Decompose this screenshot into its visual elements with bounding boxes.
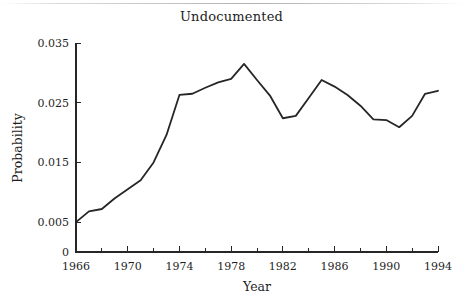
y-tick-label: 0.025: [38, 97, 70, 110]
data-series-line: [76, 64, 438, 222]
y-tick-label: 0.005: [38, 216, 70, 229]
x-tick-label: 1990: [372, 260, 400, 273]
x-axis-label: Year: [242, 279, 271, 294]
x-tick-label: 1974: [165, 260, 193, 273]
x-tick-label: 1978: [217, 260, 245, 273]
x-tick-label: 1994: [424, 260, 452, 273]
x-tick-label: 1970: [114, 260, 142, 273]
x-axis-tick-labels: 19661970197419781982198619901994: [62, 260, 452, 273]
x-tick-label: 1966: [62, 260, 90, 273]
y-axis-tick-labels: 00.0050.0150.0250.035: [38, 37, 70, 259]
axis-tick-marks: [76, 43, 438, 252]
axis-lines: [76, 43, 438, 252]
y-tick-label: 0: [62, 246, 69, 259]
x-tick-label: 1982: [269, 260, 297, 273]
y-axis-label: Probability: [10, 112, 25, 182]
y-tick-label: 0.035: [38, 37, 70, 50]
chart-figure: Undocumented 00.0050.0150.0250.035 19661…: [0, 0, 463, 303]
x-tick-label: 1986: [321, 260, 349, 273]
y-tick-label: 0.015: [38, 156, 70, 169]
plot-area: 00.0050.0150.0250.035 196619701974197819…: [0, 0, 463, 303]
